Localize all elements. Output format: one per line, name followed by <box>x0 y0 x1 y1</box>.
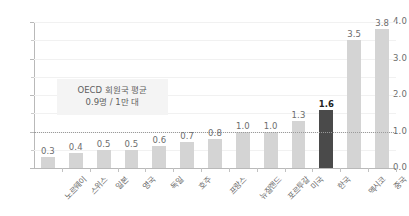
bar-value-label: 0.3 <box>34 146 62 156</box>
bar-value-label: 1.0 <box>229 121 257 131</box>
y-axis-tick <box>30 168 34 169</box>
bar-value-label: 3.8 <box>368 18 396 28</box>
bar-value-label: 0.4 <box>62 142 90 152</box>
bar <box>41 157 55 168</box>
x-axis-tick <box>62 168 63 172</box>
bar <box>375 29 389 168</box>
bar-value-label: 1.6 <box>312 99 340 109</box>
bar <box>264 132 278 169</box>
gridline-minor <box>34 40 396 41</box>
gridline-minor <box>34 77 396 78</box>
bar-value-label: 0.8 <box>201 128 229 138</box>
x-axis-tick <box>368 168 369 172</box>
bar <box>152 146 166 168</box>
bar-value-label: 0.7 <box>173 131 201 141</box>
bar-value-label: 0.5 <box>117 139 145 149</box>
x-axis-category-label: 미국 <box>308 174 326 192</box>
x-axis-tick <box>229 168 230 172</box>
x-axis-tick <box>201 168 202 172</box>
x-axis-category-label: 포르투갈 <box>284 174 312 202</box>
gridline <box>34 22 396 23</box>
gridline <box>34 59 396 60</box>
bar <box>69 153 83 168</box>
x-axis-category-label: 노르웨이 <box>61 174 89 202</box>
bar-value-label: 1.3 <box>285 110 313 120</box>
x-axis-category-label: 독일 <box>168 174 186 192</box>
bar-value-label: 3.5 <box>340 29 368 39</box>
bar-value-label: 0.6 <box>145 135 173 145</box>
bar <box>236 132 250 169</box>
x-axis-tick <box>396 168 397 172</box>
x-axis-category-label: 일본 <box>113 174 131 192</box>
x-axis-tick <box>145 168 146 172</box>
annotation-line-2: 0.9명 / 1만 대 <box>61 96 164 108</box>
x-axis-category-label: 한국 <box>335 174 353 192</box>
x-axis-category-label: 영국 <box>141 174 159 192</box>
x-axis-category-label: 중국 <box>391 174 409 192</box>
bar <box>292 121 306 168</box>
bar <box>180 142 194 168</box>
x-axis-line <box>34 168 396 169</box>
oecd-average-annotation: OECD 회원국 평균 0.9명 / 1만 대 <box>57 79 168 115</box>
bar <box>347 40 361 168</box>
x-axis-tick <box>90 168 91 172</box>
bar <box>97 150 111 168</box>
bar <box>319 110 333 168</box>
bar <box>125 150 139 168</box>
x-axis-category-label: 프랑스 <box>226 174 249 197</box>
bar-value-label: 0.5 <box>90 139 118 149</box>
x-axis-category-label: 멕시코 <box>365 174 388 197</box>
bar-value-label: 1.0 <box>257 121 285 131</box>
annotation-line-1: OECD 회원국 평균 <box>61 84 164 96</box>
x-axis-category-label: 호주 <box>196 174 214 192</box>
x-axis-tick <box>312 168 313 172</box>
x-axis-tick <box>118 168 119 172</box>
x-axis-tick <box>285 168 286 172</box>
x-axis-tick <box>257 168 258 172</box>
x-axis-tick <box>340 168 341 172</box>
x-axis-category-label: 뉴질랜드 <box>256 174 284 202</box>
x-axis-tick <box>173 168 174 172</box>
bar <box>208 139 222 168</box>
x-axis-category-label: 스위스 <box>87 174 110 197</box>
